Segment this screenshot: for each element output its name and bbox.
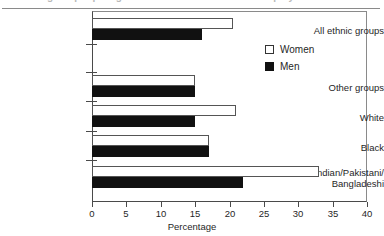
bar-men-other-groups: [92, 86, 195, 97]
x-axis-tick: [126, 202, 127, 207]
category-label-black: Black: [296, 143, 384, 154]
x-axis-label-20: 20: [215, 208, 245, 219]
chart-legend: Women Men: [265, 44, 314, 78]
legend-label-men: Men: [280, 61, 299, 72]
x-axis-tick: [195, 202, 196, 207]
x-axis-label-40: 40: [352, 208, 382, 219]
legend-label-women: Women: [280, 44, 314, 55]
x-axis-label-35: 35: [318, 208, 348, 219]
x-axis-tick: [298, 202, 299, 207]
y-axis-tick: [86, 131, 97, 132]
bar-women-all-ethnic-groups: [92, 18, 233, 29]
category-label-all-ethnic-groups: All ethnic groups: [296, 26, 384, 37]
category-label-white: White: [296, 113, 384, 124]
x-axis-label-5: 5: [111, 208, 141, 219]
legend-swatch-women-icon: [265, 45, 274, 54]
x-axis-tick: [161, 202, 162, 207]
bar-women-other-groups: [92, 75, 195, 86]
x-axis-label-15: 15: [180, 208, 210, 219]
y-axis-tick: [86, 160, 97, 161]
x-axis-label-0: 0: [77, 208, 107, 219]
bar-men-white: [92, 116, 195, 127]
bar-men-black: [92, 146, 209, 157]
bar-women-white: [92, 105, 236, 116]
bar-chart: All ethnic groups Other groups White Bla…: [0, 0, 384, 236]
y-axis-tick: [86, 44, 97, 45]
x-axis-tick: [333, 202, 334, 207]
x-axis-label-30: 30: [283, 208, 313, 219]
bar-women-black: [92, 135, 209, 146]
bar-women-indian-pakistani-bangladeshi: [92, 166, 319, 177]
legend-item-men: Men: [265, 61, 314, 72]
x-axis-tick: [230, 202, 231, 207]
y-axis-tick: [86, 72, 97, 73]
x-axis-label-10: 10: [146, 208, 176, 219]
legend-swatch-men-icon: [265, 62, 274, 71]
x-axis-tick: [92, 202, 93, 207]
x-axis-title: Percentage: [0, 221, 384, 232]
x-axis-label-25: 25: [249, 208, 279, 219]
x-axis-tick: [367, 202, 368, 207]
legend-item-women: Women: [265, 44, 314, 55]
x-axis-tick: [264, 202, 265, 207]
category-label-other-groups: Other groups: [296, 83, 384, 94]
y-axis-tick: [86, 101, 97, 102]
bar-men-all-ethnic-groups: [92, 29, 202, 40]
bar-men-indian-pakistani-bangladeshi: [92, 177, 243, 188]
